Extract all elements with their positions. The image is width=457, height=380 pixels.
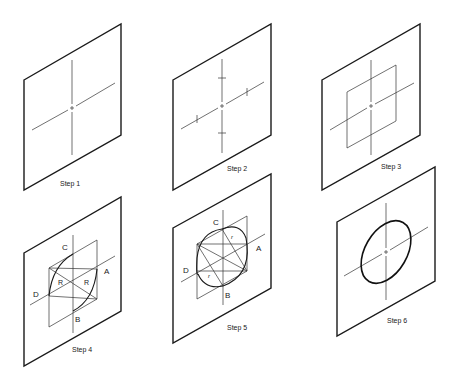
step-5-panel: C A D B r r Step 5 (173, 174, 271, 343)
isometric-circle-diagram: Step 1 Step 2 Step 3 (0, 0, 457, 380)
arc-large (197, 229, 222, 274)
point-b-label: B (75, 315, 80, 324)
arc-cd (49, 254, 73, 296)
isometric-plane-frame (24, 197, 121, 366)
step-label: Step 5 (227, 324, 247, 332)
step-6-panel: Step 6 (337, 167, 435, 336)
step-3-panel: Step 3 (322, 24, 420, 190)
point-d-label: D (183, 266, 189, 275)
step-2-panel: Step 2 (173, 24, 271, 190)
radius-label: r (231, 234, 234, 240)
isometric-plane-frame (24, 24, 121, 190)
point-c-label: C (62, 243, 68, 252)
radius-label: R (84, 279, 89, 286)
step-label: Step 4 (72, 346, 92, 354)
isometric-square (347, 65, 396, 148)
point-a-label: A (256, 244, 262, 253)
point-c-label: C (213, 218, 219, 227)
point-a-label: A (104, 267, 110, 276)
radius-label: R (58, 279, 63, 286)
step-4-panel: C A D B R R Step 4 (24, 197, 121, 366)
radius-label: r (208, 273, 211, 279)
point-d-label: D (33, 290, 39, 299)
step-label: Step 3 (381, 163, 401, 171)
point-b-label: B (225, 291, 230, 300)
step-1-panel: Step 1 (24, 24, 121, 190)
step-label: Step 1 (60, 180, 80, 188)
arc-ab (73, 269, 97, 311)
step-label: Step 6 (387, 317, 407, 325)
step-label: Step 2 (227, 165, 247, 173)
